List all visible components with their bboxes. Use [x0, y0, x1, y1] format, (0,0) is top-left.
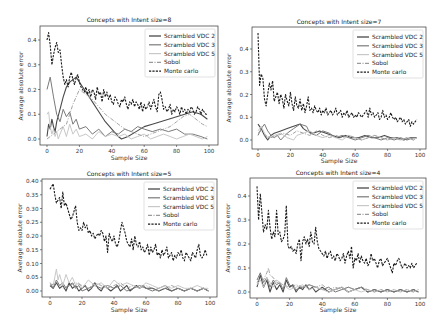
legend-label: Monte carlo [163, 221, 198, 227]
x-tick-label: 0 [48, 300, 52, 306]
x-tick-label: 100 [204, 148, 215, 154]
subplot-intent-size-5: Concepts with Intent size=5 Sample Size … [16, 170, 217, 314]
x-tick-label: 0 [255, 301, 259, 307]
subplot-title: Concepts with Intent size=4 [296, 169, 381, 177]
y-tick-label: 0.4 [28, 37, 37, 43]
subplot-title: Concepts with Intent size=8 [87, 16, 172, 24]
subplot-intent-size-8: Concepts with Intent size=8 Sample Size … [17, 16, 218, 162]
subplot-intent-size-7: Concepts with Intent size=7 Sample Size … [225, 18, 426, 165]
legend-label: Monte carlo [372, 69, 407, 75]
y-tick-label: 0.3 [28, 62, 37, 68]
series-line [258, 126, 417, 140]
x-tick-label: 60 [141, 148, 149, 154]
y-tick-label: 0.1 [238, 265, 247, 271]
legend-label: Scrambled VDC 5 [163, 204, 214, 210]
y-tick-label: 0.2 [238, 241, 247, 247]
x-tick-label: 20 [286, 301, 294, 307]
y-tick-label: 0.00 [26, 288, 39, 294]
subplot-intent-size-4: Concepts with Intent size=4 Sample Size … [224, 169, 426, 314]
x-tick-label: 40 [110, 300, 118, 306]
x-tick-label: 40 [108, 148, 116, 154]
x-tick-label: 80 [173, 148, 181, 154]
x-tick-label: 60 [351, 301, 359, 307]
x-axis-label: Sample Size [111, 306, 148, 314]
x-tick-label: 20 [76, 148, 84, 154]
y-tick-label: 0.0 [240, 137, 249, 143]
y-tick-label: 0.20 [26, 233, 39, 239]
x-tick-label: 20 [287, 152, 295, 158]
y-tick-label: 0.2 [28, 87, 37, 93]
legend-label: Scrambled VDC 5 [372, 203, 423, 209]
y-tick-label: 0.0 [28, 136, 37, 142]
x-tick-label: 100 [415, 152, 426, 158]
legend-label: Scrambled VDC 2 [163, 186, 214, 192]
y-tick-label: 0.3 [238, 217, 247, 223]
subplot-title: Concepts with Intent size=7 [297, 18, 382, 26]
x-tick-label: 20 [78, 300, 86, 306]
x-tick-label: 60 [142, 300, 150, 306]
x-tick-label: 100 [415, 301, 426, 307]
x-axis-label: Sample Size [321, 157, 358, 165]
y-tick-label: 0.0 [238, 289, 247, 295]
y-axis-label: Average absolute error [224, 203, 232, 272]
y-tick-label: 0.4 [240, 46, 249, 52]
x-tick-label: 80 [174, 300, 182, 306]
legend-label: Scrambled VDC 2 [164, 33, 215, 39]
x-tick-label: 80 [384, 152, 392, 158]
y-tick-label: 0.2 [240, 92, 249, 98]
y-tick-label: 0.30 [26, 206, 39, 212]
legend-label: Scrambled VDC 3 [372, 43, 423, 49]
x-tick-label: 0 [256, 152, 260, 158]
x-tick-label: 80 [384, 301, 392, 307]
legend: Scrambled VDC 2Scrambled VDC 3Scrambled … [353, 181, 423, 229]
legend-label: Sobol [163, 212, 179, 218]
x-tick-label: 0 [45, 148, 49, 154]
legend-label: Monte carlo [164, 68, 199, 74]
x-tick-label: 100 [205, 300, 216, 306]
y-tick-label: 0.1 [28, 111, 37, 117]
x-tick-label: 40 [319, 301, 327, 307]
y-axis-label: Average absolute error [17, 51, 25, 120]
y-tick-label: 0.1 [240, 114, 249, 120]
x-tick-label: 40 [319, 152, 327, 158]
legend-label: Scrambled VDC 3 [163, 195, 214, 201]
x-axis-label: Sample Size [111, 154, 148, 162]
legend-label: Scrambled VDC 3 [164, 42, 215, 48]
legend-label: Monte carlo [372, 220, 407, 226]
y-tick-label: 0.05 [26, 274, 39, 280]
y-tick-label: 0.15 [26, 247, 39, 253]
legend: Scrambled VDC 2Scrambled VDC 3Scrambled … [145, 29, 215, 77]
legend-label: Scrambled VDC 2 [372, 34, 423, 40]
y-axis-label: Average absolute error [16, 203, 24, 272]
legend-label: Sobol [372, 211, 388, 217]
y-axis-label: Average absolute error [225, 53, 233, 122]
legend-label: Scrambled VDC 5 [164, 51, 215, 57]
subplot-title: Concepts with Intent size=5 [87, 170, 172, 178]
legend: Scrambled VDC 2Scrambled VDC 3Scrambled … [353, 30, 423, 78]
x-axis-label: Sample Size [320, 306, 357, 314]
x-tick-label: 60 [352, 152, 360, 158]
legend-label: Sobol [372, 60, 388, 66]
y-tick-label: 0.4 [238, 193, 247, 199]
legend-label: Scrambled VDC 3 [372, 194, 423, 200]
y-tick-label: 0.10 [26, 261, 39, 267]
figure: Concepts with Intent size=8 Sample Size … [0, 0, 445, 330]
legend-label: Sobol [164, 59, 180, 65]
legend-label: Scrambled VDC 5 [372, 52, 423, 58]
y-tick-label: 0.25 [26, 219, 39, 225]
y-tick-label: 0.3 [240, 69, 249, 75]
y-tick-label: 0.40 [26, 178, 39, 184]
legend-label: Scrambled VDC 2 [372, 185, 423, 191]
y-tick-label: 0.35 [26, 192, 39, 198]
legend: Scrambled VDC 2Scrambled VDC 3Scrambled … [144, 182, 214, 230]
